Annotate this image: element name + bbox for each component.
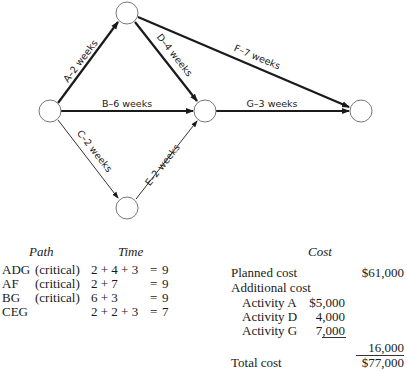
path-total: 7 [162,304,169,320]
edge-activity-b: B–6 weeks [61,98,193,111]
node-middle [194,100,216,122]
planned-cost-value: $61,000 [340,265,404,281]
edge-label-e: E–2 weeks [143,142,182,188]
subtotal-rule [322,337,346,338]
planned-cost-label: Planned cost [231,265,297,281]
additional-cost-label: Additional cost [231,280,311,296]
paths-header-time: Time [118,244,143,260]
path-expr: 2 + 2 + 3 [91,304,138,320]
edge-activity-d: D–4 weeks [135,22,197,101]
total-cost-label: Total cost [231,355,282,371]
node-start [39,100,61,122]
edge-activity-g: G–3 weeks [216,98,349,111]
edge-activity-a: A–2 weeks [58,22,118,103]
paths-header-path: Path [29,244,54,260]
project-network-diagram: A–2 weeks B–6 weeks C–2 weeks D–4 weeks … [0,0,407,225]
node-bottom [116,197,138,219]
edge-label-g: G–3 weeks [246,98,297,109]
node-top [116,2,138,24]
activity-g-label: Activity G [242,323,297,339]
edge-activity-c: C–2 weeks [58,120,118,198]
path-eq: = [150,304,157,320]
cost-header: Cost [308,244,332,260]
edge-activity-f: F–7 weeks [138,17,349,107]
total-cost-value: $77,000 [340,355,404,371]
node-end [350,100,372,122]
edge-label-b: B–6 weeks [102,98,152,109]
additional-cost-total: 16,000 [355,340,404,356]
edge-activity-e: E–2 weeks [136,121,197,199]
path-note: (critical) [35,290,80,306]
edge-label-a: A–2 weeks [61,37,100,84]
path-name: CEG [2,304,28,320]
